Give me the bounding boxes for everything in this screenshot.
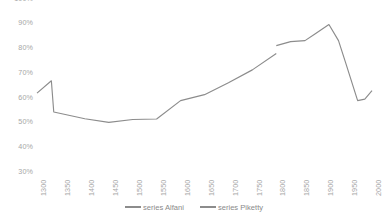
x-axis-tick-label: 1450 — [112, 180, 120, 196]
x-axis-tick-label: 1650 — [208, 180, 216, 196]
chart-legend: series Alfaniseries Piketty — [0, 198, 388, 216]
x-axis-tick-label: 2000 — [375, 180, 383, 196]
legend-item[interactable]: series Alfani — [125, 203, 184, 212]
legend-item[interactable]: series Piketty — [200, 203, 263, 212]
x-axis-tick-label: 1550 — [160, 180, 168, 196]
x-axis-tick-label: 1600 — [184, 180, 192, 196]
x-axis-tick-label: 1500 — [136, 180, 144, 196]
legend-line-swatch — [125, 206, 141, 208]
line-chart: 100%90%80%70%60%50%40%30% 13001350140014… — [0, 0, 388, 222]
x-axis-tick-label: 1900 — [327, 180, 335, 196]
legend-item-label: series Alfani — [143, 203, 184, 212]
x-axis-tick-label: 1750 — [256, 180, 264, 196]
x-axis-tick-label: 1950 — [351, 180, 359, 196]
legend-line-swatch — [200, 206, 216, 208]
x-axis-tick-label: 1400 — [88, 180, 96, 196]
x-axis-tick-label: 1850 — [303, 180, 311, 196]
x-axis-tick-label: 1700 — [232, 180, 240, 196]
x-axis-tick-label: 1350 — [64, 180, 72, 196]
x-axis-tick-label: 1300 — [40, 180, 48, 196]
legend-item-label: series Piketty — [218, 203, 263, 212]
x-axis-tick-label: 1800 — [279, 180, 287, 196]
x-axis: 1300135014001450150015501600165017001750… — [0, 0, 388, 222]
